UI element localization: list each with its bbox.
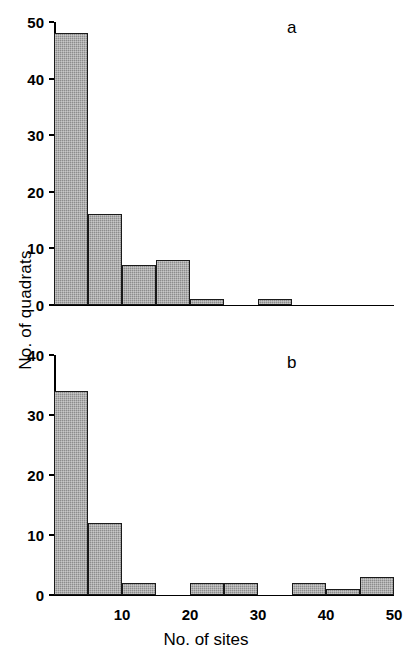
y-tick-label: 40 [4, 72, 44, 87]
histogram-bar [326, 589, 360, 595]
y-tick-mark [49, 354, 54, 356]
y-tick-label: 20 [4, 468, 44, 483]
y-tick-label: 10 [4, 528, 44, 543]
panel-a: 01020304050 a [54, 22, 394, 325]
histogram-bar [122, 583, 156, 595]
histogram-bar [88, 214, 122, 305]
y-tick-mark [49, 21, 54, 23]
y-tick-label: 30 [4, 408, 44, 423]
y-tick-label: 20 [4, 185, 44, 200]
x-tick-label: 50 [374, 607, 412, 622]
histogram-bar [122, 265, 156, 305]
panel-a-plot-area: 01020304050 [54, 22, 394, 305]
histogram-bar [88, 523, 122, 595]
histogram-bar [292, 583, 326, 595]
histogram-bar [54, 391, 88, 595]
y-tick-label: 10 [4, 241, 44, 256]
panel-b-letter: b [287, 353, 296, 373]
x-tick-label: 20 [170, 607, 210, 622]
y-tick-label: 50 [4, 15, 44, 30]
panel-b-x-axis-line [54, 595, 394, 596]
histogram-bar [190, 299, 224, 305]
y-tick-label: 0 [4, 588, 44, 603]
y-tick-label: 0 [4, 298, 44, 313]
histogram-bar [156, 260, 190, 305]
x-tick-label: 30 [238, 607, 278, 622]
panel-a-x-axis-line [54, 305, 394, 306]
histogram-figure: No. of quadrats 01020304050 a 010203040 … [0, 0, 412, 659]
panel-a-letter: a [287, 18, 296, 38]
histogram-bar [360, 577, 394, 595]
histogram-bar [54, 33, 88, 305]
histogram-bar [258, 299, 292, 305]
y-tick-label: 40 [4, 348, 44, 363]
x-tick-label: 40 [306, 607, 346, 622]
histogram-bar [190, 583, 224, 595]
histogram-bar [224, 583, 258, 595]
y-tick-label: 30 [4, 128, 44, 143]
panel-b: 010203040 1020304050 b [54, 355, 394, 645]
x-tick-label: 10 [102, 607, 142, 622]
x-axis-title: No. of sites [0, 630, 412, 650]
panel-b-plot-area: 010203040 1020304050 [54, 355, 394, 595]
